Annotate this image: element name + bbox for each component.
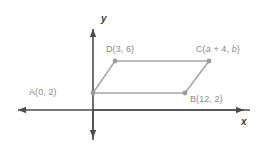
vertex-c-label-prefix: C( bbox=[196, 44, 206, 54]
figure-canvas bbox=[0, 0, 267, 149]
y-axis-label: y bbox=[101, 14, 107, 24]
x-axis-label: x bbox=[241, 117, 247, 127]
vertex-a-point bbox=[91, 91, 96, 96]
vertex-d-label: D(3, 6) bbox=[106, 45, 134, 54]
coordinate-plane-figure: D(3, 6) C(a + 4, b) A(0, 2) B(12, 2) y x bbox=[0, 0, 267, 149]
vertex-a-label: A(0, 2) bbox=[29, 88, 57, 97]
vertex-b-point bbox=[183, 91, 188, 96]
vertex-b-label: B(12, 2) bbox=[190, 95, 223, 104]
vertex-c-label-mid: + 4, bbox=[211, 44, 232, 54]
vertex-c-point bbox=[207, 59, 212, 64]
parallelogram-shape bbox=[93, 61, 209, 93]
vertex-c-label-suffix: ) bbox=[237, 44, 240, 54]
vertex-c-label: C(a + 4, b) bbox=[196, 45, 240, 54]
vertex-d-point bbox=[113, 59, 118, 64]
